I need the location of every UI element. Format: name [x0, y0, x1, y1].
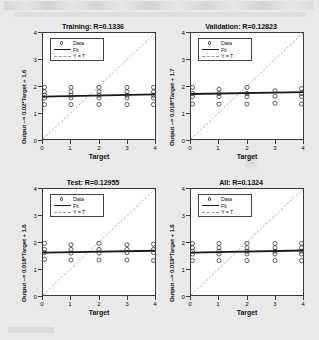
y-axis-label-training: Output ~= 0.02*Target + 1.6 — [20, 70, 27, 144]
legend-test: Data Fit Y = T — [50, 194, 104, 217]
y-axis-label-test: Output ~= 0.018*Target + 1.6 — [20, 225, 27, 302]
y-tick-3: 3 — [26, 56, 37, 63]
identity-line-icon — [53, 53, 72, 59]
legend-training: Data Fit Y = T — [50, 38, 104, 61]
x-tick-2: 2 — [97, 300, 100, 307]
plot-title-all: All: R=0.1324 — [176, 178, 306, 187]
y-tick-4: 4 — [26, 29, 37, 36]
legend-label-data: Data — [220, 40, 232, 46]
scan-artifact-band — [14, 12, 306, 17]
plot-area-test: Data Fit Y = T — [42, 188, 156, 296]
legend-label-identity: Y = T — [72, 209, 85, 215]
plot-title-training: Training: R=0.1336 — [28, 22, 158, 31]
x-axis-label-validation: Target — [190, 153, 304, 160]
x-tick-3: 3 — [273, 144, 276, 151]
legend-label-identity: Y = T — [220, 209, 233, 215]
legend-label-data: Data — [220, 196, 232, 202]
x-tick-1: 1 — [216, 144, 219, 151]
x-tick-0: 0 — [40, 144, 43, 151]
legend-entry-identity: Y = T — [201, 53, 249, 59]
x-tick-4: 4 — [153, 300, 156, 307]
legend-label-fit: Fit — [72, 203, 79, 209]
x-tick-3: 3 — [125, 144, 128, 151]
x-tick-2: 2 — [97, 144, 100, 151]
y-tick-1: 1 — [26, 110, 37, 117]
y-tick-0: 0 — [174, 293, 185, 300]
legend-label-fit: Fit — [220, 203, 227, 209]
y-tick-4: 4 — [174, 185, 185, 192]
plot-area-validation: Data Fit Y = T — [190, 32, 304, 140]
legend-label-identity: Y = T — [220, 53, 233, 59]
legend-entry-identity: Y = T — [201, 209, 249, 215]
x-tick-3: 3 — [273, 300, 276, 307]
legend-label-identity: Y = T — [72, 53, 85, 59]
legend-validation: Data Fit Y = T — [198, 38, 252, 61]
y-tick-1: 1 — [174, 110, 185, 117]
x-tick-4: 4 — [301, 300, 304, 307]
identity-line-icon — [201, 53, 220, 59]
x-axis-label-training: Target — [42, 153, 156, 160]
y-tick-3: 3 — [174, 56, 185, 63]
legend-label-fit: Fit — [72, 47, 79, 53]
y-tick-2: 2 — [26, 239, 37, 246]
y-tick-0: 0 — [26, 137, 37, 144]
y-tick-2: 2 — [174, 83, 185, 90]
x-tick-1: 1 — [68, 300, 71, 307]
x-tick-1: 1 — [68, 144, 71, 151]
x-tick-2: 2 — [245, 144, 248, 151]
legend-entry-identity: Y = T — [53, 53, 101, 59]
x-axis-label-all: Target — [190, 309, 304, 316]
plot-area-training: Data Fit Y = T — [42, 32, 156, 140]
y-tick-3: 3 — [26, 212, 37, 219]
x-tick-1: 1 — [216, 300, 219, 307]
plot-area-all: Data Fit Y = T — [190, 188, 304, 296]
x-tick-0: 0 — [188, 300, 191, 307]
legend-all: Data Fit Y = T — [198, 194, 252, 217]
legend-label-data: Data — [72, 40, 84, 46]
x-axis-label-test: Target — [42, 309, 156, 316]
y-tick-2: 2 — [174, 239, 185, 246]
y-axis-label-validation: Output ~= 0.018*Target + 1.7 — [168, 69, 175, 146]
scan-artifact-bottom-left — [8, 327, 54, 333]
x-tick-3: 3 — [125, 300, 128, 307]
plot-title-test: Test: R=0.12955 — [28, 178, 158, 187]
x-tick-0: 0 — [40, 300, 43, 307]
scan-artifact-top — [4, 1, 314, 10]
y-axis-label-all: Output ~= 0.019*Target + 1.6 — [168, 225, 175, 302]
y-tick-0: 0 — [26, 293, 37, 300]
subplot-validation: Validation: R=0.12823 Output ~= 0.018*Ta… — [162, 22, 308, 167]
y-tick-0: 0 — [174, 137, 185, 144]
x-tick-4: 4 — [301, 144, 304, 151]
y-tick-2: 2 — [26, 83, 37, 90]
y-tick-3: 3 — [174, 212, 185, 219]
subplot-training: Training: R=0.1336 Output ~= 0.02*Target… — [14, 22, 160, 167]
legend-entry-identity: Y = T — [53, 209, 101, 215]
identity-line-icon — [201, 209, 220, 215]
y-tick-4: 4 — [174, 29, 185, 36]
legend-label-data: Data — [72, 196, 84, 202]
y-tick-1: 1 — [26, 266, 37, 273]
regression-figure: Training: R=0.1336 Output ~= 0.02*Target… — [0, 0, 319, 340]
y-tick-4: 4 — [26, 185, 37, 192]
x-tick-0: 0 — [188, 144, 191, 151]
y-tick-1: 1 — [174, 266, 185, 273]
legend-label-fit: Fit — [220, 47, 227, 53]
subplot-test: Test: R=0.12955 Output ~= 0.018*Target +… — [14, 178, 160, 326]
subplot-all: All: R=0.1324 Output ~= 0.019*Target + 1… — [162, 178, 308, 326]
x-tick-4: 4 — [153, 144, 156, 151]
x-tick-2: 2 — [245, 300, 248, 307]
plot-title-validation: Validation: R=0.12823 — [176, 22, 306, 31]
identity-line-icon — [53, 209, 72, 215]
